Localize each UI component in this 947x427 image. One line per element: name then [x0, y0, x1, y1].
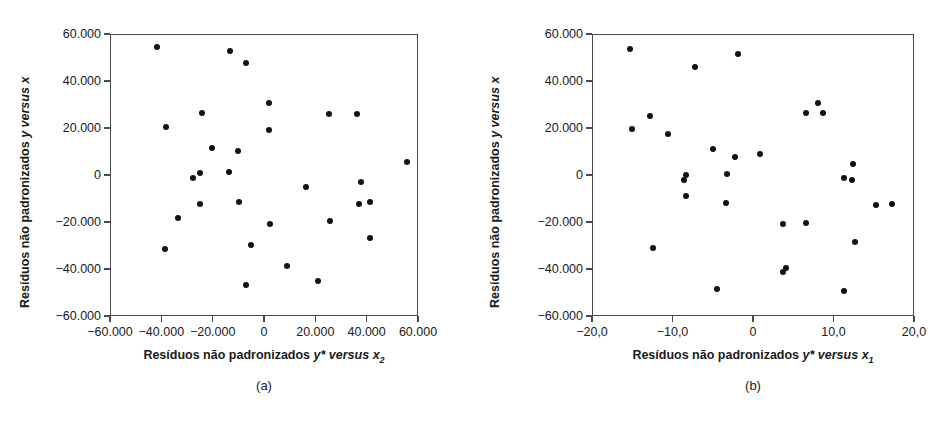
data-point [850, 161, 856, 167]
y-tick-mark [586, 221, 592, 223]
data-point [226, 169, 232, 175]
data-point [780, 221, 786, 227]
x-tick-mark [913, 316, 915, 322]
data-point [303, 184, 309, 190]
figure-container: −60.000−40.000−20.000020.00040.00060.000… [0, 0, 947, 427]
y-tick-mark [104, 80, 110, 82]
y-tick-mark [104, 268, 110, 270]
x-tick-mark [752, 316, 754, 322]
data-points-layer-a [111, 35, 417, 315]
data-point [723, 200, 729, 206]
x-tick-label: 0 [750, 325, 757, 339]
data-point [873, 202, 879, 208]
y-tick-label: 40.000 [545, 74, 583, 88]
data-point [665, 131, 671, 137]
x-tick-mark [591, 316, 593, 322]
plot-frame-a [110, 34, 418, 316]
x-tick-mark [109, 316, 111, 322]
data-point [650, 245, 656, 251]
y-axis-title-a: Resíduos não padronizados y versus x [18, 77, 32, 308]
x-tick-label: −60.000 [87, 325, 133, 339]
y-tick-label: 20.000 [545, 121, 583, 135]
y-tick-label: 60.000 [545, 27, 583, 41]
y-tick-mark [586, 174, 592, 176]
x-tick-label: 0 [261, 325, 268, 339]
y-tick-label: −60.000 [537, 309, 583, 323]
data-point [367, 199, 373, 205]
scatter-panel-a: −60.000−40.000−20.000020.00040.00060.000… [0, 0, 470, 427]
data-points-layer-b [593, 35, 913, 315]
x-tick-mark [833, 316, 835, 322]
y-tick-mark [104, 174, 110, 176]
y-axis-title-b: Resíduos não padronizados y versus x [488, 77, 502, 308]
x-tick-mark [417, 316, 419, 322]
data-point [327, 218, 333, 224]
data-point [266, 127, 272, 133]
y-tick-mark [586, 33, 592, 35]
data-point [284, 263, 290, 269]
data-point [735, 51, 741, 57]
y-tick-label: −40.000 [537, 262, 583, 276]
data-point [404, 159, 410, 165]
x-tick-label: −40.000 [139, 325, 185, 339]
y-tick-label: −20.000 [55, 215, 101, 229]
x-tick-label: −20,0 [576, 325, 608, 339]
data-point [163, 124, 169, 130]
data-point [267, 221, 273, 227]
y-tick-mark [586, 127, 592, 129]
x-tick-label: −10,0 [657, 325, 689, 339]
y-tick-mark [104, 127, 110, 129]
x-tick-label: −20.000 [190, 325, 236, 339]
y-tick-label: −60.000 [55, 309, 101, 323]
y-tick-label: 40.000 [63, 74, 101, 88]
x-tick-label: 20,0 [902, 325, 926, 339]
x-tick-label: 10,0 [821, 325, 845, 339]
data-point [732, 154, 738, 160]
data-point [803, 110, 809, 116]
panel-caption-b: (b) [592, 378, 914, 393]
x-tick-mark [672, 316, 674, 322]
data-point [629, 126, 635, 132]
data-point [356, 201, 362, 207]
data-point [803, 220, 809, 226]
data-point [841, 288, 847, 294]
y-tick-mark [586, 80, 592, 82]
y-tick-label: −40.000 [55, 262, 101, 276]
plot-frame-b [592, 34, 914, 316]
y-tick-label: 60.000 [63, 27, 101, 41]
data-point [236, 199, 242, 205]
x-tick-mark [315, 316, 317, 322]
data-point [780, 269, 786, 275]
data-point [647, 113, 653, 119]
data-point [849, 177, 855, 183]
data-point [714, 286, 720, 292]
data-point [197, 170, 203, 176]
data-point [358, 179, 364, 185]
data-point [710, 146, 716, 152]
data-point [227, 48, 233, 54]
y-tick-mark [104, 33, 110, 35]
data-point [757, 151, 763, 157]
x-tick-mark [212, 316, 214, 322]
data-point [199, 110, 205, 116]
x-tick-label: 20.000 [296, 325, 334, 339]
data-point [627, 46, 633, 52]
data-point [681, 177, 687, 183]
x-tick-label: 60.000 [399, 325, 437, 339]
x-tick-mark [161, 316, 163, 322]
data-point [326, 111, 332, 117]
y-tick-mark [586, 268, 592, 270]
data-point [209, 145, 215, 151]
data-point [190, 175, 196, 181]
y-tick-label: 0 [576, 168, 583, 182]
x-tick-label: 40.000 [348, 325, 386, 339]
x-axis-title-b: Resíduos não padronizados y* versus x1 [592, 348, 914, 365]
data-point [162, 246, 168, 252]
data-point [266, 100, 272, 106]
y-tick-label: 0 [94, 168, 101, 182]
x-tick-mark [263, 316, 265, 322]
x-tick-mark [366, 316, 368, 322]
data-point [315, 278, 321, 284]
scatter-panel-b: −60.000−40.000−20.000020.00040.00060.000… [470, 0, 947, 427]
data-point [175, 215, 181, 221]
